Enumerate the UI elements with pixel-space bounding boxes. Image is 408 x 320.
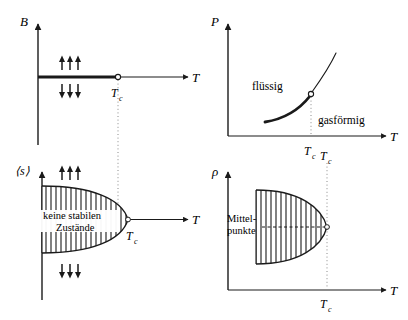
p-axis-label: P xyxy=(210,14,219,29)
b-axis-label: B xyxy=(20,14,28,29)
region-label-liquid: flüssig xyxy=(252,80,283,93)
spins-up-annotation xyxy=(59,166,81,181)
panel-density-order-parameter: Mittel- punkte ρ T T c T c xyxy=(211,149,398,314)
critical-point-marker xyxy=(308,91,313,96)
rho-axis-label: ρ xyxy=(211,164,218,179)
t-axis-label: T xyxy=(390,129,398,144)
spins-down-annotation xyxy=(59,84,81,99)
spins-down-annotation xyxy=(59,264,81,279)
critical-point-marker xyxy=(115,74,120,79)
region-label-line2: Zustände xyxy=(56,222,95,233)
critical-temperature-subscript: c xyxy=(119,94,123,103)
t-axis-label: T xyxy=(390,283,398,298)
panel-fluid-phase-diagram: P T T c flüssig gasförmig xyxy=(210,14,398,161)
critical-temperature-subscript: c xyxy=(312,152,316,161)
critical-temperature-label: T xyxy=(126,229,134,243)
coexistence-curve-thin xyxy=(312,53,336,92)
panel-magnetization-order-parameter: keine stabilen Zustände ⟨s⟩ T T c xyxy=(15,164,200,300)
critical-temperature-subscript-bottom: c xyxy=(328,305,332,314)
critical-temperature-label-bottom: T xyxy=(320,297,328,311)
critical-temperature-subscript: c xyxy=(134,237,138,246)
midpoints-label-line1: Mittel- xyxy=(227,213,257,224)
panel-magnet-phase-diagram: B T T c xyxy=(20,14,200,205)
figure-canvas: B T T c xyxy=(0,0,408,320)
critical-temperature-subscript-top: c xyxy=(328,157,332,166)
physics-figure: B T T c xyxy=(0,0,408,320)
t-axis-label: T xyxy=(192,212,200,227)
midpoints-label-line2: punkte xyxy=(227,225,256,236)
spins-up-annotation xyxy=(59,56,81,71)
critical-temperature-label-top: T xyxy=(320,149,328,163)
region-label-line1: keine stabilen xyxy=(43,210,102,221)
t-axis-label: T xyxy=(192,70,200,85)
critical-point-marker xyxy=(126,217,131,222)
s-axis-label: ⟨s⟩ xyxy=(15,164,30,178)
region-label-gas: gasförmig xyxy=(318,114,365,127)
coexistence-curve-thick xyxy=(265,96,310,122)
critical-temperature-label: T xyxy=(304,144,312,158)
